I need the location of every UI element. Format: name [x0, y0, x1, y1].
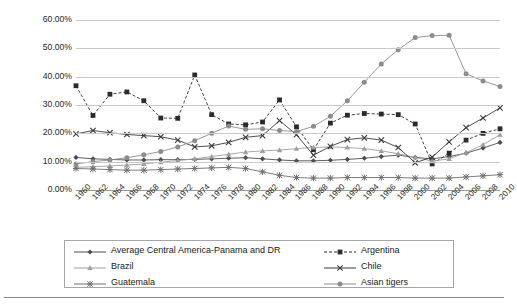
data-point-star [378, 174, 384, 180]
gridline [76, 133, 500, 134]
data-point-circle [328, 114, 333, 119]
data-point-square [91, 113, 96, 118]
data-point-square [108, 92, 113, 97]
data-point-star [87, 280, 93, 286]
data-point-diamond [379, 154, 384, 159]
legend-marker-star-icon [73, 276, 107, 288]
data-point-circle [430, 33, 435, 38]
data-point-diamond [497, 140, 502, 145]
x-axis-tick-label: 2010 [498, 183, 517, 202]
data-point-star [395, 174, 401, 180]
legend-item[interactable]: Guatemala [73, 274, 313, 289]
data-point-circle [481, 78, 486, 83]
legend-item-label: Argentina [361, 245, 400, 255]
data-point-square [447, 151, 452, 156]
data-point-square [328, 121, 333, 126]
data-point-circle [192, 138, 197, 143]
y-axis-tick-label: 0.00% [2, 185, 72, 194]
data-point-square [260, 120, 265, 125]
series-line [76, 75, 500, 164]
data-point-square [158, 116, 163, 121]
data-point-square [362, 111, 367, 116]
y-axis-tick-label: 50.00% [2, 43, 72, 52]
series-line [76, 167, 500, 178]
legend-item[interactable]: Brazil [73, 258, 313, 273]
gridline [76, 105, 500, 106]
y-axis-tick-label: 30.00% [2, 100, 72, 109]
legend-item-label: Asian tigers [361, 277, 408, 287]
data-point-square [209, 112, 214, 117]
legend-marker-triangle-icon [73, 260, 107, 272]
data-point-circle [226, 123, 231, 128]
data-point-circle [175, 144, 180, 149]
data-point-square [124, 90, 129, 95]
data-point-circle [345, 98, 350, 103]
data-point-square [277, 98, 282, 103]
data-point-star [259, 169, 265, 175]
data-point-square [175, 116, 180, 121]
data-point-square [294, 124, 299, 129]
data-point-star [158, 167, 164, 173]
data-point-star [107, 167, 113, 173]
series-brazil [73, 132, 502, 169]
legend-item-label: Average Central America-Panama and DR [111, 245, 280, 255]
data-point-star [141, 167, 147, 173]
data-point-x [311, 152, 316, 157]
legend-column-right: ArgentinaChileAsian tigers [323, 241, 453, 287]
y-axis-tick-label: 20.00% [2, 128, 72, 137]
y-axis-tick-label: 10.00% [2, 157, 72, 166]
gridline [76, 20, 500, 21]
data-point-square [74, 83, 79, 88]
data-point-x [396, 145, 401, 150]
data-point-star [497, 172, 503, 178]
y-axis-labels: 0.00%10.00%20.00%30.00%40.00%50.00%60.00… [0, 20, 72, 190]
series-asian-tigers [74, 33, 503, 167]
data-point-star [310, 175, 316, 181]
data-point-circle [464, 71, 469, 76]
chart-legend: Average Central America-Panama and DRBra… [64, 240, 454, 288]
legend-item[interactable]: Asian tigers [323, 274, 453, 289]
legend-item-label: Chile [361, 261, 382, 271]
data-point-square [464, 138, 469, 143]
data-point-star [463, 174, 469, 180]
data-point-diamond [87, 249, 92, 254]
data-point-star [344, 174, 350, 180]
data-point-square [396, 112, 401, 117]
data-point-star [175, 166, 181, 172]
data-point-star [192, 165, 198, 171]
data-point-x [446, 139, 451, 144]
data-point-star [243, 165, 249, 171]
legend-item[interactable]: Average Central America-Panama and DR [73, 242, 313, 257]
data-point-circle [124, 155, 129, 160]
data-point-square [141, 98, 146, 103]
data-point-circle [447, 33, 452, 38]
legend-item[interactable]: Argentina [323, 242, 453, 257]
data-point-x [463, 125, 468, 130]
data-point-star [226, 164, 232, 170]
data-point-circle [362, 80, 367, 85]
legend-marker-circle-icon [323, 276, 357, 288]
data-point-diamond [260, 156, 265, 161]
data-point-square [243, 122, 248, 127]
data-point-triangle [480, 142, 485, 147]
y-axis-tick-label: 40.00% [2, 72, 72, 81]
data-point-star [361, 174, 367, 180]
data-point-star [293, 174, 299, 180]
legend-column-left: Average Central America-Panama and DRBra… [73, 241, 313, 287]
data-point-star [480, 173, 486, 179]
y-axis-tick-label: 60.00% [2, 15, 72, 24]
data-point-star [446, 175, 452, 181]
gridline [76, 77, 500, 78]
x-axis-labels: 1960196219641966196819701972197419761978… [76, 192, 500, 238]
data-point-square [379, 112, 384, 117]
data-point-circle [311, 124, 316, 129]
legend-item[interactable]: Chile [323, 258, 453, 273]
legend-marker-square-icon [323, 244, 357, 256]
data-point-star [412, 175, 418, 181]
data-point-square [338, 249, 343, 254]
data-point-square [413, 122, 418, 127]
data-point-diamond [73, 155, 78, 160]
data-point-star [124, 167, 130, 173]
data-point-square [498, 126, 503, 131]
